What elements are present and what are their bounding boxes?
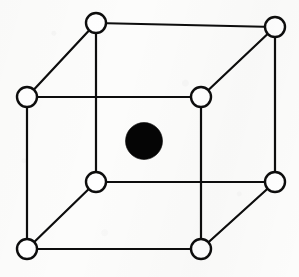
- corner-atom-back-bottom-right: [265, 172, 285, 192]
- corner-atom-front-bottom-right: [191, 239, 211, 259]
- corner-atom-back-top-right: [265, 17, 285, 37]
- corner-atom-front-top-left: [17, 87, 37, 107]
- edge-depth-top-left: [27, 23, 96, 97]
- corner-atom-front-bottom-left: [17, 239, 37, 259]
- corner-atom-back-bottom-left: [86, 172, 106, 192]
- edge-depth-bottom-left: [27, 182, 96, 249]
- body-center-atom: [126, 123, 163, 160]
- bcc-unit-cell-figure: [0, 0, 299, 277]
- lattice-diagram-canvas: [0, 0, 299, 277]
- edge-depth-top-right: [201, 27, 275, 97]
- edge-back-top: [96, 23, 275, 27]
- corner-atom-front-top-right: [191, 87, 211, 107]
- corner-atom-back-top-left: [86, 13, 106, 33]
- edge-depth-bottom-right: [201, 182, 275, 249]
